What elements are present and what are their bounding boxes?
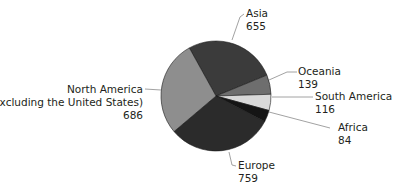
label-africa-value: 84	[338, 134, 368, 147]
label-oceania-name: Oceania	[298, 65, 341, 78]
label-asia-name: Asia	[246, 7, 268, 20]
leader-line-asia	[232, 14, 244, 40]
leader-line-europe	[229, 152, 236, 166]
label-europe-name: Europe	[238, 159, 275, 172]
label-south-america-value: 116	[315, 103, 392, 116]
label-north-america-value: 686	[0, 109, 143, 122]
leader-line-north-america	[145, 89, 161, 90]
label-asia-value: 655	[246, 20, 268, 33]
label-europe: Europe 759	[238, 159, 275, 185]
label-north-america-name-line1: North America	[0, 83, 143, 96]
label-asia: Asia 655	[246, 7, 268, 33]
leader-line-oceania	[269, 72, 297, 80]
label-south-america: South America 116	[315, 90, 392, 116]
label-africa-name: Africa	[338, 121, 368, 134]
label-europe-value: 759	[238, 172, 275, 185]
pie-slices	[161, 41, 271, 151]
label-oceania: Oceania 139	[298, 65, 341, 91]
label-south-america-name: South America	[315, 90, 392, 103]
label-africa: Africa 84	[338, 121, 368, 147]
label-north-america: North America (excluding the United Stat…	[0, 83, 143, 122]
label-north-america-name-line2: (excluding the United States)	[0, 96, 143, 109]
